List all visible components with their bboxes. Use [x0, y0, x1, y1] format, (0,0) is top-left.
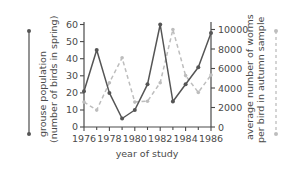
series-grouse-line — [84, 25, 211, 119]
left-tick-label-0: 0 — [72, 121, 78, 132]
x-tick-label-1982: 1982 — [148, 133, 172, 144]
left-tick-label-10: 10 — [66, 104, 78, 115]
x-tick-label-1980: 1980 — [123, 133, 147, 144]
x-tick-label-1976: 1976 — [72, 133, 96, 144]
right-tick-label-4000: 4000 — [218, 83, 242, 94]
x-tick-label-1978: 1978 — [97, 133, 121, 144]
left-tick-label-50: 50 — [66, 36, 78, 47]
right-tick-label-8000: 8000 — [218, 44, 242, 55]
left-tick-label-40: 40 — [66, 53, 78, 64]
left-axis-title-line2: (number of birds in spring) — [48, 16, 59, 143]
x-axis-tick-labels: 1976 1978 1980 1982 1984 1986 — [72, 133, 223, 144]
left-tick-label-30: 30 — [66, 70, 78, 81]
right-tick-label-2000: 2000 — [218, 102, 242, 113]
x-tick-label-1984: 1984 — [174, 133, 198, 144]
x-axis — [84, 127, 211, 131]
right-tick-label-6000: 6000 — [218, 63, 242, 74]
legend-left-key — [27, 29, 31, 136]
dashed-line-key-top-dot — [274, 29, 278, 33]
left-axis-tick-labels: 60 50 40 30 20 10 0 — [66, 19, 78, 132]
left-axis — [80, 22, 84, 127]
dashed-line-key-bottom-dot — [274, 132, 278, 136]
chart-figure: grouse population (number of birds in sp… — [0, 0, 285, 169]
x-tick-label-1986: 1986 — [199, 133, 223, 144]
left-tick-label-60: 60 — [66, 19, 78, 30]
x-axis-title: year of study — [116, 148, 179, 159]
right-axis-title-line1: average number of worms — [244, 14, 255, 140]
solid-line-key-top-dot — [27, 29, 31, 33]
series-grouse — [82, 23, 213, 121]
right-axis-title-line2: per bird in autumn sample — [255, 16, 266, 143]
solid-line-key-bottom-dot — [27, 132, 31, 136]
left-axis-title-line1: grouse population — [37, 51, 48, 137]
left-tick-label-20: 20 — [66, 87, 78, 98]
right-tick-label-0: 0 — [218, 122, 224, 133]
legend-right-key — [274, 29, 278, 136]
